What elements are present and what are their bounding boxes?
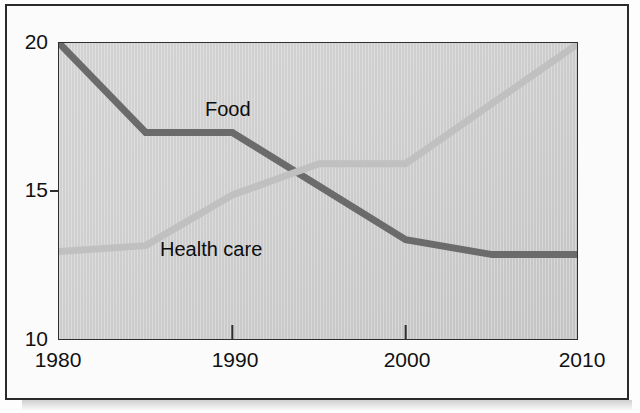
series-line-health-care [59, 43, 578, 252]
x-axis-label-2010: 2010 [546, 348, 618, 372]
scan-shadow [22, 400, 632, 411]
plot-area [58, 42, 578, 340]
x-axis-label-1990: 1990 [199, 348, 271, 372]
chart-figure: 20 15 10 1980 1990 2000 2010 Food Health… [0, 0, 640, 413]
y-axis-label-15: 15 [2, 178, 48, 202]
y-axis-label-20: 20 [2, 30, 48, 54]
chart-lines [59, 43, 578, 340]
series-label-food: Food [205, 98, 251, 121]
series-label-health-care: Health care [160, 238, 262, 261]
series-line-food [59, 43, 578, 255]
x-axis-label-1980: 1980 [22, 348, 94, 372]
x-axis-label-2000: 2000 [371, 348, 443, 372]
